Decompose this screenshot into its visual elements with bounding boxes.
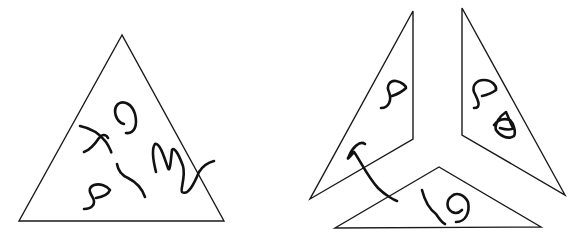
right-piece-s-scribble (473, 80, 496, 108)
x-scribble (80, 126, 111, 152)
left-piece-s-scribble (381, 81, 406, 108)
s-scribble (84, 184, 110, 209)
right-piece-knot-scribble (494, 112, 515, 138)
left-piece-outline (310, 11, 413, 199)
dissected-triangle-panel (310, 8, 565, 228)
arc-scribble (117, 164, 145, 197)
figure-caption: Triangle containing hand-drawn squiggles… (0, 0, 44, 1)
bottom-piece-loop-scribble (422, 190, 469, 224)
diagram-canvas (0, 0, 575, 245)
whole-triangle-outline (19, 35, 224, 221)
whole-triangle-panel (19, 35, 224, 221)
loop-scribble (115, 102, 136, 133)
